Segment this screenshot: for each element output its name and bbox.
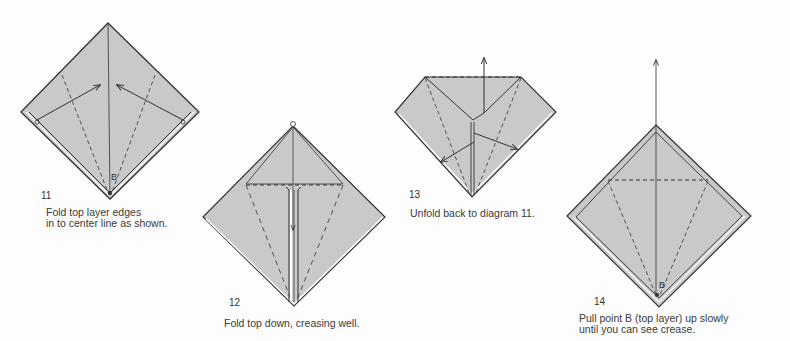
point-label-b: B [659, 280, 665, 290]
step-number-14: 14 [594, 296, 605, 307]
origami-instructions-page: B [0, 0, 790, 341]
diagram-13 [395, 58, 556, 197]
step-caption-12: Fold top down, creasing well. [224, 318, 359, 329]
step-caption-11-line2: in to center line as shown. [46, 218, 167, 229]
step-number-11: 11 [41, 190, 51, 201]
diagram-11: B [21, 23, 199, 199]
step-number-12: 12 [229, 297, 240, 308]
step-number-13: 13 [409, 189, 420, 200]
origami-diagrams: B [0, 0, 790, 341]
step-caption-14-line2: until you can see crease. [579, 324, 695, 335]
point-label-b: B [111, 172, 117, 182]
step-caption-13: Unfold back to diagram 11. [410, 208, 535, 219]
diagram-14: B [567, 60, 751, 307]
diagram-12 [203, 122, 385, 307]
